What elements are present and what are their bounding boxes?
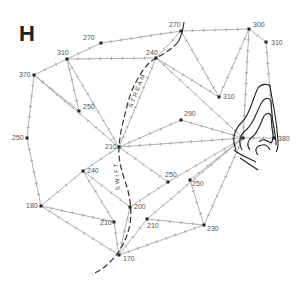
elevation-node: [40, 205, 43, 208]
elevation-label: 380: [278, 135, 290, 142]
elevation-node: [155, 57, 158, 60]
elevation-label: 370: [19, 71, 31, 78]
contour-triangulation-diagram: STREAM SWIFT 270310370250250270240300310…: [0, 0, 305, 285]
elevation-node: [82, 170, 85, 173]
elevation-label: 180: [26, 202, 38, 209]
elevation-label: 310: [223, 93, 235, 100]
elevation-label: 250: [165, 171, 177, 178]
elevation-label: 250: [12, 134, 24, 141]
elevation-label: 200: [134, 203, 146, 210]
elevation-label: 170: [123, 255, 135, 262]
elevation-node: [218, 96, 221, 99]
elevation-label: 240: [87, 167, 99, 174]
elevation-label: 250: [192, 180, 204, 187]
elevation-node: [273, 137, 276, 140]
elevation-node: [242, 137, 245, 140]
elevation-node: [33, 74, 36, 77]
elevation-node: [146, 218, 149, 221]
triangulation-edges: [27, 28, 275, 255]
elevation-node: [66, 58, 69, 61]
elevation-label: 210: [105, 143, 117, 150]
elevation-label: 290: [184, 110, 196, 117]
elevation-label: 210: [100, 219, 112, 226]
elevation-node: [118, 146, 121, 149]
elevation-node: [180, 30, 183, 33]
elevation-label: 250: [83, 103, 95, 110]
elevation-node: [265, 41, 268, 44]
elevation-node: [129, 206, 132, 209]
elevation-node: [203, 224, 206, 227]
elevation-node: [26, 137, 29, 140]
elevation-node: [248, 28, 251, 31]
elevation-label: 210: [147, 222, 159, 229]
elevation-label: 240: [146, 49, 158, 56]
elevation-node: [78, 110, 81, 113]
elevation-node: [167, 181, 170, 184]
contour-lines: [234, 84, 278, 170]
elevation-node: [118, 254, 121, 257]
elevation-label: 230: [207, 225, 219, 232]
elevation-label: 310: [57, 49, 69, 56]
elevation-label: 270: [83, 34, 95, 41]
elevation-label: 270: [169, 21, 181, 28]
elevation-node: [100, 42, 103, 45]
elevation-node: [113, 221, 116, 224]
elevation-label: 310: [271, 39, 283, 46]
elevation-label: 300: [253, 21, 265, 28]
stream-label-swift: SWIFT: [113, 161, 121, 190]
elevation-node: [180, 119, 183, 122]
